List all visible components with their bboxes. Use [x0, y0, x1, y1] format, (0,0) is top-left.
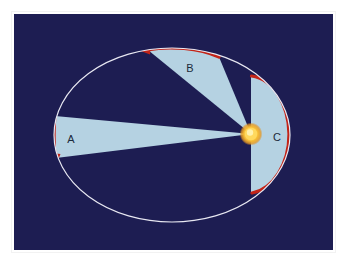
sector-label-c: C [273, 131, 281, 143]
figure-root: A B C [0, 0, 346, 263]
sun-hotspot-icon [247, 129, 253, 135]
orbital-diagram: A B C [0, 0, 346, 263]
sector-label-b: B [186, 62, 193, 74]
sector-label-a: A [67, 133, 75, 145]
